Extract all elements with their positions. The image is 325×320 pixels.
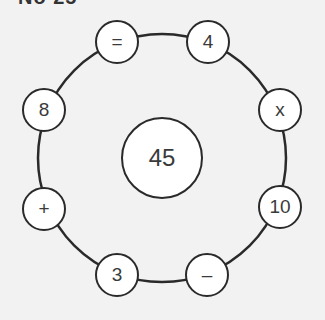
ring-node-right-upper: x <box>258 88 302 132</box>
ring-node-top-right: 4 <box>186 20 230 64</box>
center-node: 45 <box>121 117 203 199</box>
ring-node-right-lower: 10 <box>258 185 302 229</box>
ring-node-bottom-right: – <box>185 253 229 297</box>
ring-node-left-lower: + <box>22 187 66 231</box>
ring-node-left-upper: 8 <box>22 88 66 132</box>
number-ring-puzzle: No 25 = 4 x 10 – 3 + 8 45 <box>0 0 325 320</box>
ring-node-bottom-left: 3 <box>95 253 139 297</box>
ring-node-top-left: = <box>95 20 139 64</box>
